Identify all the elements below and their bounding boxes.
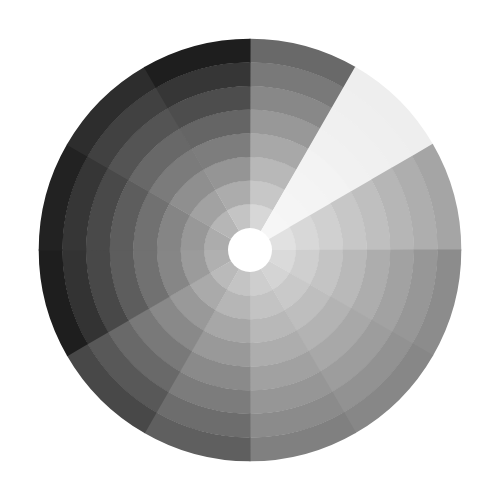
- grayscale-color-wheel: [0, 0, 495, 496]
- center-hole: [228, 228, 272, 272]
